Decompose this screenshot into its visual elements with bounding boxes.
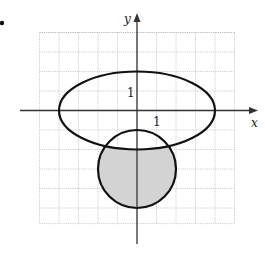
y-tick-label-1: 1	[127, 86, 135, 100]
y-axis-arrow-icon	[134, 13, 141, 22]
y-axis-label: y	[123, 12, 131, 26]
axes	[20, 13, 258, 244]
x-axis-arrow-icon	[249, 107, 258, 114]
bullet-marker	[0, 21, 4, 25]
x-tick-label-1: 1	[153, 115, 161, 129]
x-axis-label: x	[251, 116, 258, 130]
graph-figure: x y 1 1	[0, 0, 265, 253]
